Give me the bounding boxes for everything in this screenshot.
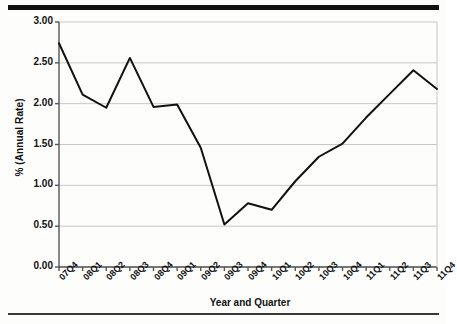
y-tick-label: 3.00	[11, 15, 53, 26]
data-line	[59, 43, 437, 224]
chart-area: % (Annual Rate) Year and Quarter 0.000.5…	[0, 12, 447, 312]
tick-marks-group	[55, 22, 437, 271]
y-tick-label: 2.00	[11, 97, 53, 108]
y-tick-label: 1.50	[11, 138, 53, 149]
figure-bottom-rule	[8, 313, 439, 315]
y-tick-label: 0.50	[11, 219, 53, 230]
data-series-group	[59, 43, 437, 224]
gridlines-group	[59, 22, 437, 267]
y-tick-label: 2.50	[11, 56, 53, 67]
figure-top-rule	[8, 5, 439, 10]
y-tick-label: 0.00	[11, 260, 53, 271]
y-tick-label: 1.00	[11, 178, 53, 189]
